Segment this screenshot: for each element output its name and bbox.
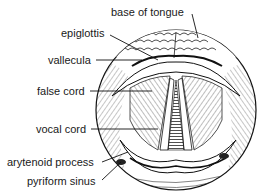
label-epiglottis: epiglottis xyxy=(61,28,104,39)
label-vocal-cord: vocal cord xyxy=(36,124,86,135)
label-pyriform-sinus: pyriform sinus xyxy=(27,176,95,187)
label-arytenoid-process: arytenoid process xyxy=(7,157,94,168)
label-base-of-tongue: base of tongue xyxy=(111,7,184,18)
scope-view xyxy=(96,30,256,190)
label-false-cord: false cord xyxy=(37,86,85,97)
leader-pyriform-sinus xyxy=(102,162,121,180)
label-vallecula: vallecula xyxy=(48,55,91,66)
larynx-diagram: base of tongue epiglottis vallecula fals… xyxy=(0,0,261,193)
